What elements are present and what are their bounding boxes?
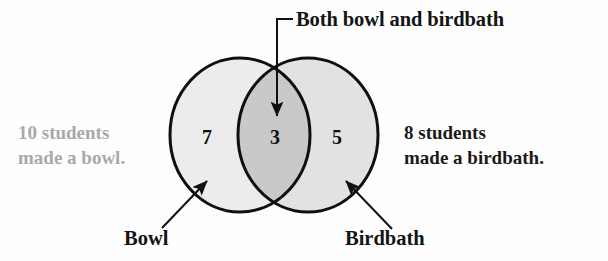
left-set-caption: 10 students made a bowl. bbox=[18, 120, 125, 170]
intersection-label: Both bowl and birdbath bbox=[296, 9, 504, 30]
birdbath-pointer-arrow bbox=[346, 181, 392, 229]
left-set-only-count: 7 bbox=[192, 126, 222, 149]
bowl-pointer-arrow bbox=[162, 181, 207, 228]
left-set-name-label: Bowl bbox=[124, 228, 168, 249]
right-set-caption-line1: 8 students bbox=[404, 120, 544, 145]
right-set-caption-line2: made a birdbath. bbox=[404, 145, 544, 170]
left-set-caption-line1: 10 students bbox=[18, 120, 125, 145]
venn-diagram-figure: Both bowl and birdbath 10 students made … bbox=[0, 0, 608, 261]
right-set-caption: 8 students made a birdbath. bbox=[404, 120, 544, 170]
right-set-name-label: Birdbath bbox=[345, 228, 425, 249]
left-set-caption-line2: made a bowl. bbox=[18, 145, 125, 170]
intersection-count: 3 bbox=[260, 126, 290, 149]
right-set-only-count: 5 bbox=[322, 126, 352, 149]
